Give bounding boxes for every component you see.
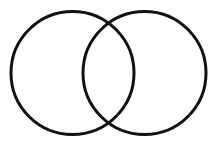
venn-diagram-svg (0, 0, 217, 142)
venn-diagram-canvas (0, 0, 217, 142)
